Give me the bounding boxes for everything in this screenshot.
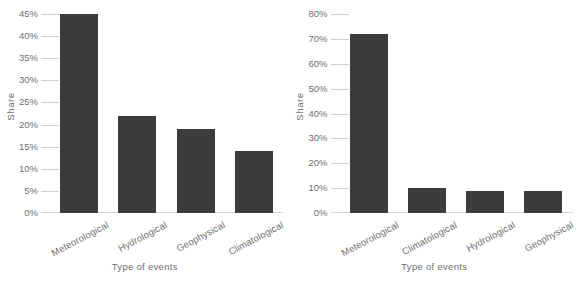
y-axis-tick-label: 80% [282, 7, 328, 21]
y-axis-tick-mark [41, 125, 59, 126]
y-axis-tick-mark [331, 114, 349, 115]
chart-panel-right: Share 0%10%20%30%40%50%60%70%80% Type of… [290, 0, 579, 283]
y-axis-tick-label: 0% [282, 206, 328, 220]
y-axis-tick-label: 5% [0, 184, 38, 198]
y-axis-tick-label: 40% [0, 29, 38, 43]
y-axis-tick-mark [331, 188, 349, 189]
y-axis-tick-mark [41, 147, 59, 148]
y-axis-tick-label: 10% [282, 181, 328, 195]
bar[interactable] [177, 129, 215, 213]
bar-chart-figure: Share 0%5%10%15%20%25%30%35%40%45% Type … [0, 0, 579, 283]
y-axis-tick-mark [331, 163, 349, 164]
y-axis-tick-label: 30% [0, 73, 38, 87]
y-axis-tick-label: 0% [0, 206, 38, 220]
bar[interactable] [408, 188, 446, 213]
y-axis-tick-mark [41, 169, 59, 170]
y-axis-tick-label: 15% [0, 140, 38, 154]
y-axis-tick-mark [331, 64, 349, 65]
bar[interactable] [118, 116, 156, 213]
y-axis-tick-mark [41, 36, 59, 37]
bar[interactable] [235, 151, 273, 213]
y-axis-tick-label: 10% [0, 162, 38, 176]
y-axis-tick-label: 25% [0, 95, 38, 109]
y-axis-tick-mark [41, 80, 59, 81]
y-axis-tick-mark [331, 89, 349, 90]
y-axis-tick-label: 40% [282, 107, 328, 121]
y-axis-tick-mark [331, 39, 349, 40]
y-axis-tick-mark [331, 14, 349, 15]
y-axis-tick-label: 70% [282, 32, 328, 46]
bar[interactable] [466, 191, 504, 213]
y-axis-tick-mark [41, 191, 59, 192]
y-axis-tick-label: 20% [0, 118, 38, 132]
bar[interactable] [60, 14, 98, 213]
y-axis-tick-label: 30% [282, 131, 328, 145]
y-axis-tick-label: 45% [0, 7, 38, 21]
y-axis-tick-mark [41, 14, 59, 15]
y-axis-tick-label: 35% [0, 51, 38, 65]
bar[interactable] [350, 34, 388, 213]
plot-area-right: 0%10%20%30%40%50%60%70%80% [290, 0, 579, 213]
y-axis-tick-label: 60% [282, 57, 328, 71]
chart-panel-left: Share 0%5%10%15%20%25%30%35%40%45% Type … [0, 0, 290, 283]
y-axis-tick-label: 50% [282, 82, 328, 96]
y-axis-tick-mark [41, 58, 59, 59]
plot-area-left: 0%5%10%15%20%25%30%35%40%45% [0, 0, 290, 213]
y-axis-tick-label: 20% [282, 156, 328, 170]
y-axis-tick-mark [331, 138, 349, 139]
bar[interactable] [524, 191, 562, 213]
y-axis-tick-mark [41, 102, 59, 103]
